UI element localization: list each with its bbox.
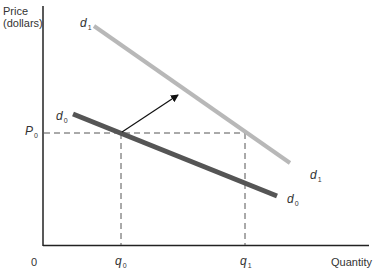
- demand-curve-d0: [73, 114, 277, 196]
- q0-sub: 0: [123, 262, 127, 269]
- demand-shift-chart: [0, 0, 378, 272]
- d0-left-sub: 0: [64, 117, 68, 124]
- q1-tick-label: q1: [240, 255, 252, 272]
- q0-main: q: [115, 254, 122, 268]
- d1-top-main: d: [80, 16, 87, 30]
- shift-arrow: [122, 95, 178, 132]
- q1-main: q: [240, 254, 247, 268]
- d0-label-left: d0: [56, 110, 68, 127]
- p0-tick-label: P0: [25, 125, 38, 142]
- y-axis-label: Price (dollars): [3, 5, 43, 29]
- p0-sub: 0: [34, 132, 38, 139]
- y-axis-label-line1: Price: [3, 5, 43, 17]
- origin-label: 0: [31, 256, 37, 268]
- demand-curve-d1: [94, 26, 290, 163]
- d0-right-main: d: [287, 192, 294, 206]
- x-axis-label: Quantity: [331, 256, 372, 268]
- q0-tick-label: q0: [115, 255, 127, 272]
- d0-label-right: d0: [287, 193, 299, 210]
- d1-label-right: d1: [310, 169, 322, 186]
- d0-right-sub: 0: [295, 200, 299, 207]
- d1-top-sub: 1: [88, 24, 92, 31]
- p0-main: P: [25, 124, 33, 138]
- d0-left-main: d: [56, 109, 63, 123]
- d1-right-sub: 1: [318, 176, 322, 183]
- d1-label-top: d1: [80, 17, 92, 34]
- q1-sub: 1: [248, 262, 252, 269]
- y-axis-label-line2: (dollars): [3, 17, 43, 29]
- d1-right-main: d: [310, 168, 317, 182]
